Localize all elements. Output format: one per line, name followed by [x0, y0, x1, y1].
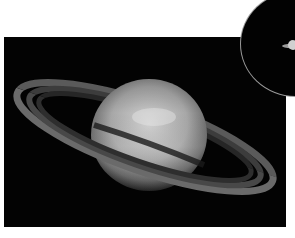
storm-spot: [132, 108, 176, 126]
inset-saturn-illustration: [241, 0, 295, 96]
saturn-inset: [241, 0, 295, 96]
